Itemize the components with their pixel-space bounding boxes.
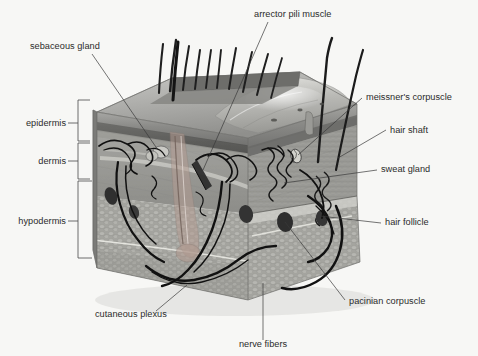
callout-label-hair-shaft: hair shaft	[390, 125, 428, 135]
callout-label-hair-follicle: hair follicle	[385, 217, 429, 227]
skin-diagram-svg: epidermis dermis hypodermis sebaceous gl…	[0, 0, 478, 356]
callout-label-cutaneous-plexus: cutaneous plexus	[95, 309, 167, 319]
skin-anatomy-figure: epidermis dermis hypodermis sebaceous gl…	[0, 0, 478, 356]
callout-label-pacinian-corpuscle: pacinian corpuscle	[349, 296, 425, 306]
callout-label-meissners-corpuscle: meissner's corpuscle	[366, 92, 452, 102]
callout-label-nerve-fibers: nerve fibers	[239, 339, 288, 349]
callout-label-sweat-gland: sweat gland	[381, 164, 430, 174]
block-left-side-face	[93, 110, 97, 268]
layer-label-hypodermis: hypodermis	[18, 216, 66, 226]
callout-label-sebaceous-gland: sebaceous gland	[30, 41, 100, 51]
layer-label-dermis: dermis	[38, 156, 66, 166]
sweat-duct-opening	[305, 112, 313, 135]
callout-label-arrector-pili-muscle: arrector pili muscle	[254, 9, 332, 19]
layer-label-epidermis: epidermis	[26, 118, 66, 128]
